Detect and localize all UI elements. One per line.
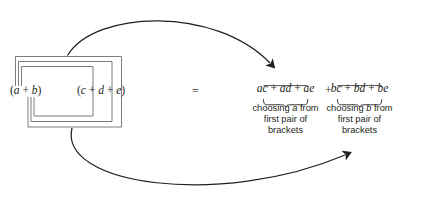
second-bracket-expression: (c + d + e): [77, 84, 125, 96]
first-bracket-expression: (a + b): [10, 84, 41, 96]
equals-sign: =: [192, 85, 199, 97]
expanded-term-expression-1: ac + ad + ae: [248, 82, 323, 94]
expanded-term-group-1: ac + ad + ae choosing a from first pair …: [248, 82, 323, 137]
term-caption-2: choosing b from first pair of brackets: [322, 103, 397, 137]
expanded-term-group-2: bc + bd + be choosing b from first pair …: [322, 82, 397, 137]
term-caption-1: choosing a from first pair of brackets: [248, 103, 323, 137]
figure-canvas: (a + b) (c + d + e) = ac + ad + ae choos…: [0, 0, 421, 206]
expanded-term-expression-2: bc + bd + be: [322, 82, 397, 94]
